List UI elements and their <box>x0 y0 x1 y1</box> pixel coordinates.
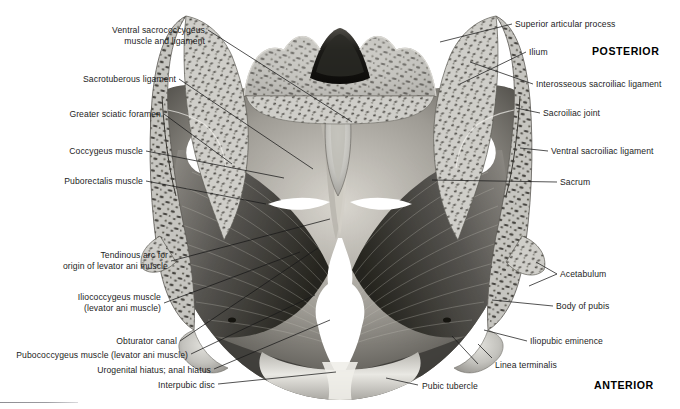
label-sacrum: Sacrum <box>560 177 590 188</box>
label-pubococcygeus-muscle: Pubococcygeus muscle (levator ani muscle… <box>16 350 188 361</box>
label-sacrotuberous-ligament: Sacrotuberous ligament <box>83 74 176 85</box>
label-puborectalis-muscle: Puborectalis muscle <box>64 176 143 187</box>
pelvic-floor-illustration <box>0 0 680 409</box>
label-interosseous-sacroiliac-ligament: Interosseous sacroiliac ligament <box>536 79 661 90</box>
label-acetabulum: Acetabulum <box>560 269 606 280</box>
label-ilium: Ilium <box>529 47 548 58</box>
label-coccygeus-muscle: Coccygeus muscle <box>69 146 143 157</box>
label-obturator-canal: Obturator canal <box>116 336 177 347</box>
label-tendinous-arc: Tendinous arc for origin of levator ani … <box>63 250 168 271</box>
label-pubic-tubercle: Pubic tubercle <box>422 381 478 392</box>
label-iliopubic-eminence: Iliopubic eminence <box>530 336 603 347</box>
label-ventral-sacrococcygeus: Ventral sacrococcygeus muscle and ligame… <box>112 25 205 46</box>
label-interpubic-disc: Interpubic disc <box>158 380 215 391</box>
obturator-canal-marker <box>443 317 451 322</box>
anatomical-figure: Ventral sacrococcygeus muscle and ligame… <box>0 0 680 409</box>
label-superior-articular-process: Superior articular process <box>515 19 616 30</box>
orientation-posterior: POSTERIOR <box>592 45 659 57</box>
label-greater-sciatic-foramen: Greater sciatic foramen <box>69 109 161 120</box>
label-linea-terminalis: Linea terminalis <box>495 360 557 371</box>
label-urogenital-anal-hiatus: Urogenital hiatus; anal hiatus <box>97 365 211 376</box>
label-sacroiliac-joint: Sacroiliac joint <box>543 108 600 119</box>
label-body-of-pubis: Body of pubis <box>556 301 609 312</box>
footer-rule <box>0 402 78 403</box>
orientation-anterior: ANTERIOR <box>594 379 654 391</box>
label-iliococcygeus-muscle: Iliococcygeus muscle (levator ani muscle… <box>78 292 161 313</box>
label-ventral-sacroiliac-ligament: Ventral sacroiliac ligament <box>551 146 654 157</box>
